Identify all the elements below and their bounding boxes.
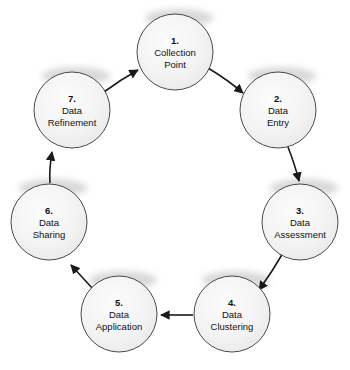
node-5-data-application[interactable]: 5. Data Application [81,276,157,352]
cycle-diagram-svg: 1. Collection Point 2. Data Entry 3. Dat… [0,0,350,370]
node-3-data-assessment[interactable]: 3. Data Assessment [262,184,338,260]
arrow-data-refinement-to-collection-point [104,70,138,92]
node-6-number: 6. [45,205,53,216]
node-5-number: 5. [115,297,123,308]
node-6-data-sharing[interactable]: 6. Data Sharing [11,184,87,260]
cycle-diagram-canvas: 1. Collection Point 2. Data Entry 3. Dat… [0,0,350,370]
node-5-label-line1: Data [109,309,130,320]
node-1-number: 1. [171,35,179,46]
node-1-label-line2: Point [164,59,186,70]
node-1-label-line1: Collection [154,47,196,58]
arrow-collection-point-to-data-entry [208,68,243,93]
node-3-label-line2: Assessment [274,229,326,240]
arrow-data-application-to-data-sharing [71,265,93,289]
node-5-label-line2: Application [96,321,142,332]
node-2-number: 2. [274,93,282,104]
node-6-label-line1: Data [39,217,60,228]
node-6-label-line2: Sharing [33,229,66,240]
node-7-label-line2: Refinement [48,117,97,128]
node-4-number: 4. [228,297,236,308]
node-2-data-entry[interactable]: 2. Data Entry [240,72,316,148]
node-4-label-line2: Clustering [211,321,254,332]
node-3-number: 3. [296,205,304,216]
node-4-label-line1: Data [222,309,243,320]
node-7-number: 7. [68,93,76,104]
node-4-data-clustering[interactable]: 4. Data Clustering [194,276,270,352]
node-1-collection-point[interactable]: 1. Collection Point [137,14,213,90]
node-2-label-line2: Entry [267,117,289,128]
arrow-data-entry-to-data-assessment [288,147,299,181]
arrow-data-sharing-to-data-refinement [50,152,52,183]
arrow-data-assessment-to-data-clustering [259,253,283,290]
node-2-label-line1: Data [268,105,289,116]
node-7-label-line1: Data [62,105,83,116]
node-7-data-refinement[interactable]: 7. Data Refinement [34,72,110,148]
node-3-label-line1: Data [290,217,311,228]
